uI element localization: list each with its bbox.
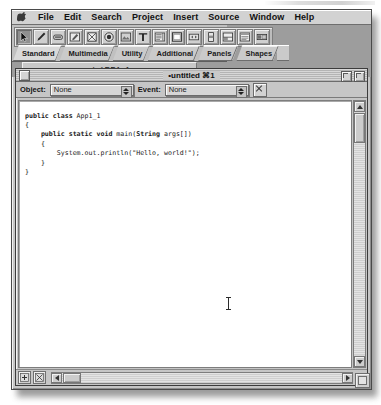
object-dropdown-value: None	[54, 85, 72, 94]
list-box-icon[interactable]	[152, 29, 168, 45]
menu-item-insert[interactable]: Insert	[168, 11, 203, 24]
function-popup-button[interactable]	[33, 371, 46, 384]
tabs-filler	[277, 45, 289, 61]
tab-standard[interactable]: Standard	[13, 45, 62, 61]
zoom-box-icon[interactable]	[341, 71, 352, 82]
tab-divider	[108, 46, 115, 60]
tab-utility[interactable]: Utility	[113, 45, 150, 61]
horizontal-scroll-thumb[interactable]	[63, 373, 81, 383]
tab-multimedia-label: Multimedia	[69, 49, 108, 58]
progress-bar-icon[interactable]	[254, 29, 270, 45]
tab-additional[interactable]: Additional	[148, 45, 201, 61]
document-title-bar[interactable]: •untitled ⌘1	[16, 69, 367, 82]
tab-utility-label: Utility	[122, 49, 143, 58]
palette-category-tabs: Standard Multimedia Utility Additional P…	[13, 45, 289, 59]
menu-item-edit[interactable]: Edit	[59, 11, 86, 24]
i-beam-pointer-icon	[226, 297, 231, 310]
menu-bar: File Edit Search Project Insert Source W…	[12, 10, 371, 25]
tab-divider	[55, 46, 62, 60]
apple-menu-icon[interactable]	[17, 11, 28, 23]
tab-multimedia[interactable]: Multimedia	[60, 45, 115, 61]
menu-item-window[interactable]: Window	[244, 11, 289, 24]
tab-divider	[143, 46, 150, 60]
scroll-right-button[interactable]	[342, 373, 353, 383]
document-window: •untitled ⌘1 Object: None Event: None	[15, 68, 368, 386]
scroll-up-button[interactable]	[354, 101, 365, 112]
split-pane-icon[interactable]	[220, 29, 236, 45]
screenshot-root: File Edit Search Project Insert Source W…	[0, 0, 381, 405]
menu-item-search[interactable]: Search	[86, 11, 127, 24]
arrow-pointer-icon[interactable]	[16, 29, 32, 45]
object-label: Object:	[20, 85, 46, 94]
collapse-box-icon[interactable]	[354, 71, 365, 82]
object-dropdown[interactable]: None	[50, 84, 134, 96]
scroller-widget-icon[interactable]	[186, 29, 202, 45]
radio-button-icon[interactable]	[101, 29, 117, 45]
tab-panels-label: Panels	[207, 49, 231, 58]
button-widget-icon[interactable]	[50, 29, 66, 45]
slider-widget-icon[interactable]	[203, 29, 219, 45]
menu-item-source[interactable]: Source	[203, 11, 244, 24]
tab-shapes-label: Shapes	[245, 49, 272, 58]
palette-tool-row	[14, 27, 273, 47]
menu-item-help[interactable]: Help	[289, 11, 319, 24]
vertical-scroll-thumb[interactable]	[354, 113, 365, 143]
object-event-bar: Object: None Event: None	[16, 82, 367, 98]
scroll-down-button[interactable]	[354, 356, 365, 367]
editor-horizontal-scrollbar[interactable]	[51, 372, 353, 384]
close-box-icon[interactable]	[19, 70, 30, 81]
edit-field-icon[interactable]	[67, 29, 83, 45]
document-title: •untitled ⌘1	[16, 69, 367, 82]
document-title-text: •untitled ⌘1	[163, 71, 219, 80]
component-palette: Standard Multimedia Utility Additional P…	[12, 25, 371, 62]
tab-divider	[193, 46, 200, 60]
event-dropdown[interactable]: None	[165, 84, 249, 96]
breakpoint-toggle-button[interactable]	[18, 371, 31, 384]
image-widget-icon[interactable]	[118, 29, 134, 45]
delete-handler-button[interactable]	[253, 83, 267, 97]
tab-panels[interactable]: Panels	[198, 45, 238, 61]
document-bottom-bar	[16, 369, 367, 385]
panel-widget-icon[interactable]	[169, 29, 185, 45]
tab-shapes[interactable]: Shapes	[236, 45, 279, 61]
chevron-updown-icon	[121, 86, 132, 98]
source-code: public class App1_1 { public static void…	[25, 112, 200, 178]
tab-additional-label: Additional	[157, 49, 194, 58]
event-dropdown-value: None	[169, 85, 187, 94]
window-resize-grow-box[interactable]	[355, 373, 370, 388]
event-label: Event:	[138, 85, 161, 94]
scan-artifact	[265, 1, 375, 5]
scroll-left-button[interactable]	[51, 373, 62, 383]
checkbox-widget-icon[interactable]	[84, 29, 100, 45]
tab-divider	[232, 46, 239, 60]
code-editor[interactable]: public class App1_1 { public static void…	[18, 100, 352, 368]
menu-bar-icon[interactable]	[237, 29, 253, 45]
title-bar-controls	[341, 71, 365, 82]
chevron-updown-icon	[236, 86, 247, 98]
editor-vertical-scrollbar[interactable]	[353, 100, 366, 368]
text-label-icon[interactable]	[135, 29, 151, 45]
menu-item-project[interactable]: Project	[127, 11, 168, 24]
hand-grabber-icon[interactable]	[33, 29, 49, 45]
tab-standard-label: Standard	[22, 49, 55, 58]
menu-item-file[interactable]: File	[33, 11, 59, 24]
application-window: File Edit Search Project Insert Source W…	[11, 9, 372, 390]
vertical-scroll-track[interactable]	[354, 113, 365, 355]
